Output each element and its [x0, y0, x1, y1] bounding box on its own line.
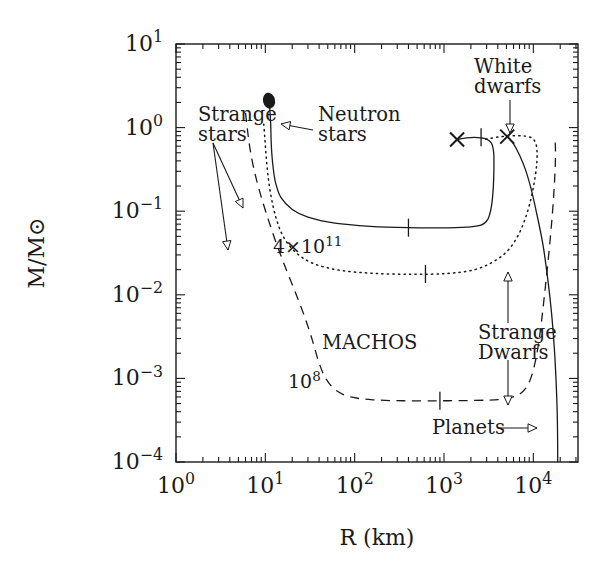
strange-dwarfs-label-line-1: Dwarfs	[478, 341, 549, 364]
y-axis-title: M/M⊙	[24, 218, 49, 289]
white-dwarfs-label-line-1: dwarfs	[474, 75, 541, 98]
neutron-stars-label-line-1: stars	[318, 123, 367, 146]
figure-canvas: 100101102103104 10110010−110−210−310−4 S…	[0, 0, 610, 584]
x-axis-title: R (km)	[340, 525, 415, 550]
machos-label-line-0: MACHOS	[322, 331, 417, 354]
strange-stars-label-line-1: stars	[198, 123, 247, 146]
mass-radius-plot: 100101102103104 10110010−110−210−310−4 S…	[0, 0, 610, 584]
planets-label-line-0: Planets	[432, 416, 505, 439]
